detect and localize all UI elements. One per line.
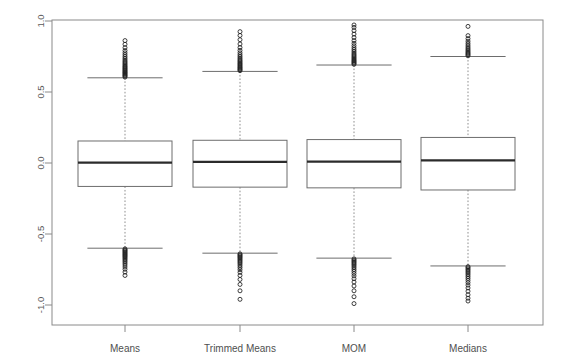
outlier-point (238, 30, 242, 34)
x-axis: MeansTrimmed MeansMOMMedians (110, 325, 487, 354)
y-axis: -1.0-0.50.00.51.0 (35, 14, 53, 313)
y-tick-label: -1.0 (35, 297, 46, 313)
x-group-label: MOM (342, 343, 366, 354)
outlier-point (466, 299, 470, 303)
boxplot-group (421, 24, 515, 303)
outlier-point (238, 277, 242, 281)
y-tick-label: 0.5 (35, 85, 46, 98)
box-series (78, 23, 515, 306)
y-tick-label: 1.0 (35, 14, 46, 27)
boxplot-canvas: -1.0-0.50.00.51.0 MeansTrimmed MeansMOMM… (0, 0, 568, 360)
outlier-point (352, 302, 356, 306)
boxplot-group (307, 23, 401, 306)
outlier-point (238, 33, 242, 37)
box-iqr (421, 137, 515, 190)
boxplot-group (78, 39, 172, 278)
outlier-point (352, 295, 356, 299)
outlier-point (238, 297, 242, 301)
y-tick-label: 0.0 (35, 156, 46, 169)
x-group-label: Medians (449, 343, 487, 354)
boxplot-group (193, 30, 287, 302)
box-iqr (307, 140, 401, 188)
outlier-point (466, 24, 470, 28)
box-iqr (193, 140, 287, 187)
boxplot-figure: -1.0-0.50.00.51.0 MeansTrimmed MeansMOMM… (0, 0, 568, 360)
box-iqr (78, 141, 172, 186)
outlier-point (238, 38, 242, 42)
x-group-label: Means (110, 343, 140, 354)
outlier-point (238, 289, 242, 293)
outlier-point (238, 282, 242, 286)
outlier-point (352, 289, 356, 293)
outlier-point (352, 284, 356, 288)
x-group-label: Trimmed Means (204, 343, 276, 354)
y-tick-label: -0.5 (35, 226, 46, 242)
